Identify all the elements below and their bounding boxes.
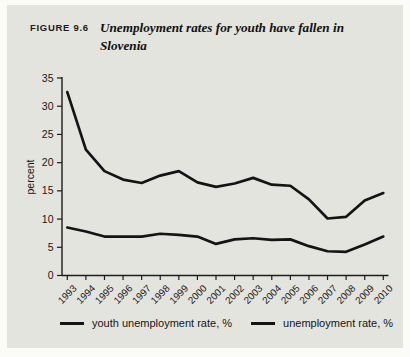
chart-legend: youth unemployment rate, % unemployment …: [60, 317, 393, 329]
unemployment-line-swatch-icon: [251, 322, 275, 325]
figure-title: Unemployment rates for youth have fallen…: [100, 19, 372, 56]
y-tick-label: 15: [42, 184, 54, 196]
figure-panel: FIGURE 9.6 Unemployment rates for youth …: [7, 5, 403, 348]
x-tick-label: 1993: [56, 282, 80, 306]
legend-label-unemployment: unemployment rate, %: [283, 317, 393, 329]
x-tick-label: 1996: [111, 282, 135, 306]
x-tick-label: 2004: [260, 282, 284, 306]
x-tick-label: 2001: [204, 283, 227, 306]
x-tick-label: 2007: [316, 283, 339, 306]
y-tick-label: 20: [42, 156, 54, 168]
y-axis-title: percent: [24, 159, 36, 194]
x-tick-label: 2010: [372, 282, 396, 306]
legend-item-youth-unemployment: youth unemployment rate, %: [60, 317, 232, 329]
y-tick-label: 35: [42, 72, 54, 84]
x-tick-label: 1999: [167, 283, 190, 306]
y-tick-label: 5: [48, 241, 54, 253]
x-tick-label: 2002: [223, 283, 246, 306]
x-tick-label: 2008: [334, 282, 358, 306]
line-chart: 0510152025303519931994199519961997199819…: [7, 70, 403, 318]
y-tick-label: 30: [42, 100, 54, 112]
legend-item-unemployment: unemployment rate, %: [251, 317, 393, 329]
series-line-unemployment: [67, 228, 383, 252]
x-tick-label: 2005: [279, 282, 303, 306]
y-tick-label: 10: [42, 213, 54, 225]
series-line-youth-unemployment: [67, 92, 383, 218]
youth-line-swatch-icon: [60, 322, 84, 325]
legend-label-youth: youth unemployment rate, %: [92, 317, 232, 329]
figure-number-label: FIGURE 9.6: [30, 22, 100, 33]
y-tick-label: 25: [42, 128, 54, 140]
x-tick-label: 2003: [241, 282, 265, 306]
y-tick-label: 0: [48, 269, 54, 281]
x-tick-label: 2000: [186, 282, 210, 306]
figure-header: FIGURE 9.6 Unemployment rates for youth …: [30, 19, 372, 56]
x-tick-label: 1997: [130, 283, 153, 306]
x-tick-label: 2009: [353, 283, 376, 306]
x-tick-label: 1994: [74, 282, 98, 306]
x-tick-label: 1998: [148, 282, 172, 306]
x-tick-label: 2006: [297, 282, 321, 306]
x-tick-label: 1995: [93, 282, 117, 306]
